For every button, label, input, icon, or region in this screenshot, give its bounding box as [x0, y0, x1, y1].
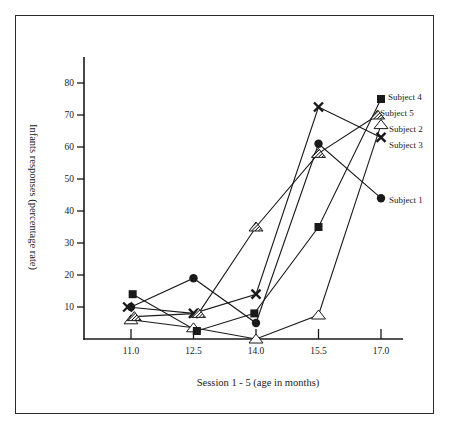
subject-5-point: [249, 222, 263, 231]
y-tick-label: 60: [65, 142, 75, 152]
subject-1-point: [377, 194, 385, 202]
series-lines: [128, 99, 381, 339]
legend-label-subject-3: Subject 3: [389, 140, 423, 150]
axes: 102030405060708011.012.514.015.517.0: [65, 57, 404, 356]
x-tick-label: 17.0: [373, 346, 390, 356]
subject-2-line: [131, 125, 381, 339]
subject-5-line: [134, 115, 377, 317]
chart: 102030405060708011.012.514.015.517.0 Ses…: [0, 0, 451, 433]
x-axis-label: Session 1 - 5 (age in months): [197, 377, 320, 389]
subject-2-point: [374, 120, 388, 129]
y-tick-label: 30: [65, 238, 75, 248]
x-tick-label: 15.5: [310, 346, 327, 356]
subject-3-point: [377, 133, 386, 142]
subject-4-point: [193, 327, 201, 335]
y-tick-label: 40: [65, 206, 75, 216]
subject-4-point: [129, 290, 137, 298]
y-tick-label: 50: [65, 174, 75, 184]
legend-label-subject-1: Subject 1: [389, 195, 423, 205]
y-axis-label: Infants responses (percentage rate): [27, 124, 39, 271]
legend-label-subject-4: Subject 4: [388, 92, 422, 102]
x-tick-label: 11.0: [123, 346, 140, 356]
subject-1-line: [131, 144, 381, 323]
legend-label-subject-5: Subject 5: [380, 108, 414, 118]
y-tick-label: 20: [65, 270, 75, 280]
legend-label-subject-2: Subject 2: [389, 124, 423, 134]
subject-1-point: [314, 140, 322, 148]
subject-3-point: [314, 103, 323, 112]
subject-4-point: [377, 95, 385, 103]
subject-1-point: [189, 274, 197, 282]
series-markers: [123, 95, 388, 343]
subject-1-point: [252, 319, 260, 327]
x-tick-label: 12.5: [185, 346, 202, 356]
y-tick-label: 70: [65, 110, 75, 120]
subject-4-point: [250, 309, 258, 317]
y-tick-label: 10: [65, 302, 75, 312]
subject-3-point: [252, 290, 261, 299]
y-tick-label: 80: [65, 78, 75, 88]
subject-4-point: [315, 223, 323, 231]
x-tick-label: 14.0: [248, 346, 265, 356]
labels: Session 1 - 5 (age in months) Infants re…: [27, 92, 423, 389]
subject-2-point: [312, 310, 326, 319]
